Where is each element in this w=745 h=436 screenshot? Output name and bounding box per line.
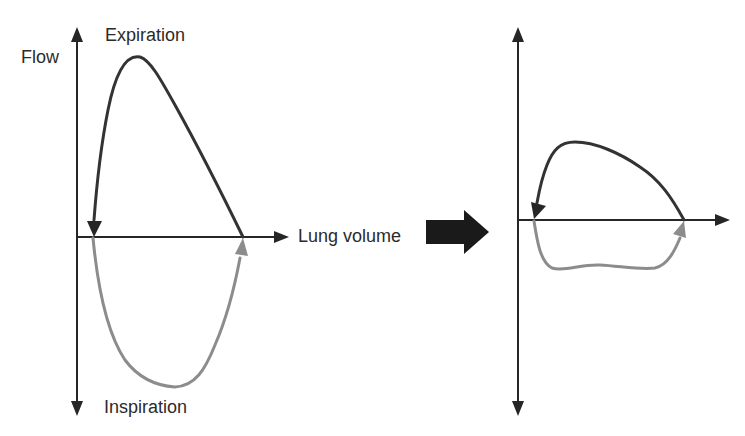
right-panel — [512, 27, 730, 416]
left-expiration-arrowhead-icon — [87, 221, 102, 237]
left-y-axis-down-arrow-icon — [71, 401, 83, 416]
right-inspiration-curve — [534, 221, 680, 269]
flow-volume-diagram — [0, 0, 745, 436]
expiration-label: Expiration — [105, 26, 185, 44]
inspiration-label: Inspiration — [104, 398, 187, 416]
right-expiration-arrowhead-icon — [531, 202, 546, 219]
left-x-axis-arrow-icon — [274, 231, 289, 243]
left-y-axis-up-arrow-icon — [71, 27, 83, 42]
right-y-axis-up-arrow-icon — [512, 27, 524, 42]
left-inspiration-arrowhead-icon — [235, 238, 248, 256]
left-panel — [71, 27, 289, 416]
left-expiration-curve — [94, 57, 243, 237]
right-expiration-curve — [537, 142, 684, 220]
left-inspiration-curve — [93, 238, 240, 387]
transition-arrow-icon — [426, 210, 489, 254]
y-axis-label: Flow — [21, 48, 59, 66]
right-inspiration-arrowhead-icon — [673, 221, 686, 238]
right-x-axis-arrow-icon — [715, 214, 730, 226]
right-y-axis-down-arrow-icon — [512, 401, 524, 416]
x-axis-label: Lung volume — [298, 227, 401, 245]
